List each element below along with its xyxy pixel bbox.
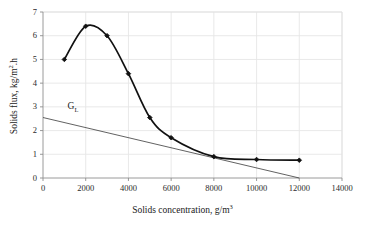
gl-annotation-label: GL xyxy=(68,101,79,113)
x-tick-label: 0 xyxy=(23,184,63,193)
y-axis-title: Solids flux, kg/m2.h xyxy=(7,26,19,166)
x-tick-label: 6000 xyxy=(151,184,191,193)
gl-annotation-sub: L xyxy=(74,106,78,113)
x-tick-label: 10000 xyxy=(237,184,277,193)
x-axis-title: Solids concentration, g/m3 xyxy=(0,203,365,215)
x-tick-label: 4000 xyxy=(108,184,148,193)
solids-flux-markers xyxy=(62,24,302,163)
y-axis-title-text: Solids flux, kg/m xyxy=(9,68,19,134)
x-tick-label: 2000 xyxy=(66,184,106,193)
y-axis-title-tail: .h xyxy=(9,58,19,65)
x-axis-title-superscript: 3 xyxy=(230,203,233,210)
y-tick-label: 0 xyxy=(13,174,37,183)
x-tick-label: 12000 xyxy=(279,184,319,193)
y-axis-title-superscript: 2 xyxy=(7,65,14,68)
x-axis-title-text: Solids concentration, g/m xyxy=(132,205,229,215)
x-tick-label: 8000 xyxy=(194,184,234,193)
x-tick-label: 14000 xyxy=(322,184,362,193)
y-tick-label: 7 xyxy=(13,8,37,17)
chart-container: 01234567 0200040006000800010000120001400… xyxy=(0,0,365,225)
solids-flux-curve xyxy=(64,25,299,160)
